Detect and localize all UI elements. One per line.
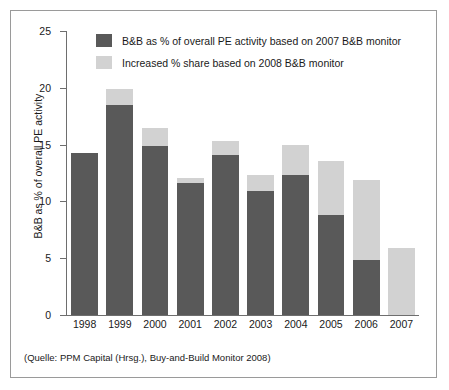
bar-segment-dark-1998 xyxy=(71,153,98,315)
x-tick-label-2005: 2005 xyxy=(313,318,348,330)
y-tick-label-0: 0 xyxy=(45,309,51,321)
y-tick-20: 20 xyxy=(60,88,66,89)
chart-figure: B&B as % of overall PE activity 25 20 15… xyxy=(0,0,449,390)
bar-segment-light-1999 xyxy=(106,89,133,105)
bar-segment-dark-2003 xyxy=(247,191,274,315)
bar-2002 xyxy=(212,141,239,315)
y-tick-25: 25 xyxy=(60,31,66,32)
bar-2003 xyxy=(247,175,274,315)
bar-segment-light-2005 xyxy=(318,161,345,216)
bar-1999 xyxy=(106,89,133,315)
y-tick-label-5: 5 xyxy=(45,252,51,264)
bar-2001 xyxy=(177,178,204,315)
bar-2004 xyxy=(282,145,309,315)
bar-2000 xyxy=(142,128,169,315)
bar-1998 xyxy=(71,153,98,315)
y-tick-label-15: 15 xyxy=(39,139,51,151)
bar-segment-dark-1999 xyxy=(106,105,133,315)
bar-segment-dark-2000 xyxy=(142,146,169,315)
x-tick-label-2004: 2004 xyxy=(278,318,313,330)
y-tick-0: 0 xyxy=(60,315,66,316)
x-tick-label-2003: 2003 xyxy=(243,318,278,330)
x-axis-line xyxy=(66,315,419,316)
x-tick-label-2001: 2001 xyxy=(173,318,208,330)
source-note: (Quelle: PPM Capital (Hrsg.), Buy-and-Bu… xyxy=(24,352,271,363)
bar-segment-dark-2002 xyxy=(212,155,239,315)
bar-segment-dark-2004 xyxy=(282,175,309,315)
bar-2007 xyxy=(388,248,415,315)
legend-label-light: Increased % share based on 2008 B&B moni… xyxy=(122,57,344,69)
y-tick-label-20: 20 xyxy=(39,82,51,94)
light-gray-swatch xyxy=(96,56,112,69)
bar-segment-light-2003 xyxy=(247,175,274,191)
bar-segment-light-2002 xyxy=(212,141,239,155)
y-tick-label-25: 25 xyxy=(39,25,51,37)
bar-segment-light-2000 xyxy=(142,128,169,146)
legend-item-dark: B&B as % of overall PE activity based on… xyxy=(96,34,401,47)
dark-gray-swatch xyxy=(96,34,112,47)
y-tick-10: 10 xyxy=(60,201,66,202)
bar-2005 xyxy=(318,161,345,315)
bar-2006 xyxy=(353,180,380,315)
bar-segment-light-2007 xyxy=(388,248,415,315)
legend-label-dark: B&B as % of overall PE activity based on… xyxy=(122,35,401,47)
x-tick-label-2006: 2006 xyxy=(349,318,384,330)
chart-legend: B&B as % of overall PE activity based on… xyxy=(96,34,401,78)
bar-segment-light-2004 xyxy=(282,145,309,176)
y-tick-label-10: 10 xyxy=(39,195,51,207)
bar-segment-light-2006 xyxy=(353,180,380,261)
x-tick-label-1999: 1999 xyxy=(102,318,137,330)
x-axis-labels: 1998199920002001200220032004200520062007 xyxy=(67,318,419,330)
y-axis-title: B&B as % of overall PE activity xyxy=(32,66,44,266)
x-tick-label-1998: 1998 xyxy=(67,318,102,330)
x-tick-label-2002: 2002 xyxy=(208,318,243,330)
x-tick-label-2007: 2007 xyxy=(384,318,419,330)
x-tick-label-2000: 2000 xyxy=(137,318,172,330)
legend-item-light: Increased % share based on 2008 B&B moni… xyxy=(96,56,401,69)
bar-segment-dark-2006 xyxy=(353,260,380,315)
y-tick-5: 5 xyxy=(60,258,66,259)
bar-segment-dark-2001 xyxy=(177,183,204,315)
bar-segment-dark-2005 xyxy=(318,215,345,315)
y-tick-15: 15 xyxy=(60,145,66,146)
